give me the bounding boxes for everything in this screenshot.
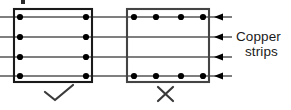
right-panel-rect (127, 9, 209, 82)
dot (153, 73, 159, 79)
dot (83, 34, 89, 40)
arrow-left-icon (214, 53, 223, 60)
arrow-left-icon (214, 72, 223, 79)
dot (17, 54, 23, 60)
copper-strips-label-line1: Copper (236, 29, 281, 44)
dot (200, 73, 206, 79)
left-panel-dots (17, 14, 89, 79)
dot (83, 54, 89, 60)
crop-artifact-mark (21, 0, 25, 4)
dot (178, 14, 184, 20)
arrow-left-icon (214, 33, 223, 40)
dot (17, 34, 23, 40)
cross-mark-icon (158, 87, 173, 101)
check-mark-icon (45, 85, 73, 100)
copper-strips-label-line2: strips (245, 44, 278, 59)
dot (153, 14, 159, 20)
dot (17, 14, 23, 20)
right-panel-dots (131, 14, 206, 79)
dot (17, 73, 23, 79)
left-panel-rect (14, 9, 92, 82)
copper-strips-diagram: Copper strips (0, 0, 291, 110)
dot (131, 14, 137, 20)
dot (200, 14, 206, 20)
dot (178, 73, 184, 79)
arrow-icons-group (214, 13, 223, 79)
dot (83, 14, 89, 20)
dot (131, 73, 137, 79)
strip-lines-group (0, 17, 232, 76)
dot (83, 73, 89, 79)
arrow-left-icon (214, 13, 223, 20)
